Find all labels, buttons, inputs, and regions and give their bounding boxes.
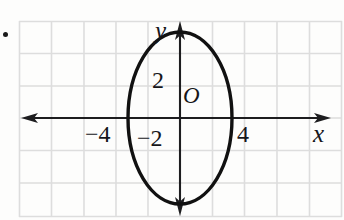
- coordinate-plane-graphic: [0, 0, 344, 220]
- x-tick-label-positive-4: 4: [237, 122, 249, 146]
- x-axis-label: x: [313, 121, 324, 146]
- y-tick-label-negative-2: −2: [137, 126, 163, 150]
- y-axis-label: y: [155, 18, 166, 43]
- x-tick-label-negative-4: −4: [85, 122, 111, 146]
- origin-label: O: [183, 84, 200, 107]
- y-tick-label-positive-2: 2: [152, 68, 164, 92]
- figure-container: y x O 2 −2 −4 4: [0, 0, 344, 220]
